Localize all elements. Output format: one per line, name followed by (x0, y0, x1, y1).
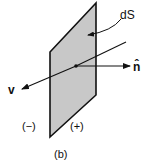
surface-element-diagram: dS v n̂ (−) (+) (b) (0, 0, 149, 167)
ds-label: dS (120, 8, 135, 22)
positive-side-label: (+) (70, 120, 84, 132)
surface-patch (50, 3, 96, 137)
normal-label: n̂ (133, 59, 140, 74)
surface-center-point (74, 64, 78, 68)
negative-side-label: (−) (22, 120, 36, 132)
velocity-label: v (8, 83, 15, 97)
figure-caption: (b) (54, 148, 67, 160)
